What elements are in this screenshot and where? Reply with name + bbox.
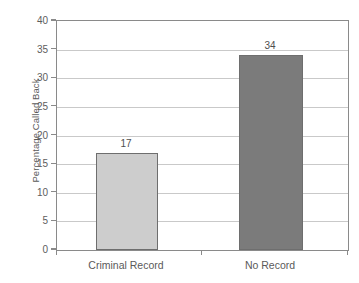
plot-area bbox=[56, 20, 349, 251]
y-axis-tick-label: 20 bbox=[6, 129, 48, 140]
gridline bbox=[57, 50, 348, 51]
y-axis-tick-label: 30 bbox=[6, 72, 48, 83]
x-axis-category-label: No Record bbox=[245, 259, 295, 271]
bar-value-label: 17 bbox=[120, 138, 131, 149]
y-axis-tick-label: 5 bbox=[6, 215, 48, 226]
bar bbox=[96, 153, 158, 250]
y-axis-tick-label: 40 bbox=[6, 15, 48, 26]
y-axis-tick-label: 25 bbox=[6, 100, 48, 111]
gridline bbox=[57, 107, 348, 108]
x-axis-category-label: Criminal Record bbox=[88, 259, 163, 271]
x-axis-tick-mark bbox=[56, 250, 57, 255]
y-axis-tick-label: 35 bbox=[6, 43, 48, 54]
bar-chart: Percentage Called Back 0510152025303540 … bbox=[0, 0, 359, 283]
x-axis-tick-mark bbox=[347, 250, 348, 255]
y-axis-tick-label: 0 bbox=[6, 244, 48, 255]
bar-value-label: 34 bbox=[264, 40, 275, 51]
x-axis-tick-mark bbox=[201, 250, 202, 255]
gridline bbox=[57, 136, 348, 137]
y-axis-tick-label: 10 bbox=[6, 186, 48, 197]
y-axis-tick-label: 15 bbox=[6, 158, 48, 169]
bar bbox=[239, 55, 303, 250]
gridline bbox=[57, 78, 348, 79]
